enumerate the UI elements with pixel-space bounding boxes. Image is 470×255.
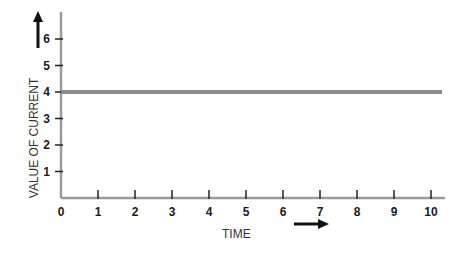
- chart: 123456012345678910TIMEVALUE OF CURRENT: [0, 0, 470, 255]
- x-tick-label: 8: [354, 205, 361, 219]
- y-tick-label: 6: [43, 32, 50, 46]
- x-tick-label: 7: [317, 205, 324, 219]
- y-tick-label: 4: [43, 85, 50, 99]
- y-axis-label: VALUE OF CURRENT: [27, 77, 41, 198]
- x-tick-label: 4: [206, 205, 213, 219]
- x-tick-label: 0: [58, 205, 65, 219]
- y-tick-label: 2: [43, 138, 50, 152]
- x-tick-label: 5: [243, 205, 250, 219]
- y-tick-label: 1: [43, 165, 50, 179]
- x-tick-label: 1: [95, 205, 102, 219]
- x-tick-label: 2: [132, 205, 139, 219]
- x-tick-label: 10: [424, 205, 438, 219]
- right-arrow-head-icon: [318, 219, 329, 229]
- x-tick-label: 3: [169, 205, 176, 219]
- y-tick-label: 3: [43, 112, 50, 126]
- x-axis-label: TIME: [222, 227, 251, 241]
- y-tick-label: 5: [43, 59, 50, 73]
- x-tick-label: 9: [391, 205, 398, 219]
- up-arrow-head-icon: [33, 11, 43, 22]
- x-tick-label: 6: [280, 205, 287, 219]
